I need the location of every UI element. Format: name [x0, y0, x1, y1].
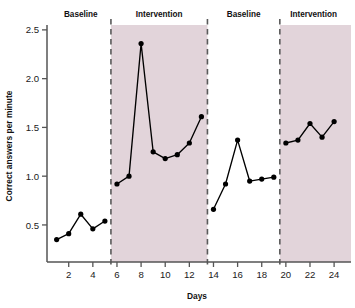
data-point-day-11	[175, 152, 180, 157]
x-tick-label-2: 6	[114, 269, 119, 280]
data-point-day-20	[283, 140, 288, 145]
phase-label-3: Intervention	[290, 10, 337, 19]
phase-label-layer: BaselineInterventionBaselineIntervention	[64, 10, 337, 19]
data-point-day-4	[90, 226, 95, 231]
x-axis-title: Days	[187, 291, 207, 301]
y-axis-title: Correct answers per minute	[4, 90, 14, 201]
phase-shading-3	[280, 25, 351, 262]
data-point-day-9	[151, 149, 156, 154]
series-line-phase-2	[213, 140, 273, 209]
data-point-day-8	[138, 41, 143, 46]
data-point-day-6	[114, 181, 119, 186]
data-point-day-7	[126, 174, 131, 179]
data-point-day-15	[223, 181, 228, 186]
data-point-day-19	[271, 175, 276, 180]
x-tick-label-9: 20	[281, 269, 292, 280]
data-point-day-14	[211, 207, 216, 212]
x-tick-label-11: 24	[329, 269, 340, 280]
data-point-day-21	[295, 137, 300, 142]
data-point-day-12	[187, 140, 192, 145]
data-point-day-24	[332, 119, 337, 124]
data-point-day-5	[102, 218, 107, 223]
y-tick-label-4: 2.5	[26, 24, 39, 35]
phase-shading-1	[111, 25, 208, 262]
phase-label-2: Baseline	[227, 10, 261, 19]
x-tick-label-10: 22	[305, 269, 316, 280]
phase-label-1: Intervention	[136, 10, 183, 19]
data-point-day-18	[259, 176, 264, 181]
x-tick-label-6: 14	[208, 269, 219, 280]
phase-shading-layer	[111, 25, 351, 262]
data-point-day-23	[319, 135, 324, 140]
data-point-day-22	[307, 121, 312, 126]
data-point-day-3	[78, 212, 83, 217]
x-tick-label-5: 12	[184, 269, 195, 280]
data-point-day-2	[66, 231, 71, 236]
chart-canvas: 0.51.01.52.02.524681012141618202224 Base…	[0, 0, 355, 308]
y-tick-label-0: 0.5	[26, 220, 39, 231]
x-tick-label-7: 16	[232, 269, 243, 280]
data-point-day-16	[235, 137, 240, 142]
x-tick-label-4: 10	[160, 269, 171, 280]
series-line-phase-0	[57, 214, 105, 239]
y-tick-label-1: 1.0	[26, 171, 39, 182]
x-tick-label-8: 18	[256, 269, 267, 280]
phase-label-0: Baseline	[64, 10, 98, 19]
y-tick-label-3: 2.0	[26, 73, 39, 84]
data-point-day-1	[54, 237, 59, 242]
data-point-day-17	[247, 178, 252, 183]
y-tick-label-2: 1.5	[26, 122, 39, 133]
x-tick-label-0: 2	[66, 269, 71, 280]
x-tick-label-1: 4	[90, 269, 96, 280]
data-point-day-13	[199, 114, 204, 119]
single-case-design-chart: 0.51.01.52.02.524681012141618202224 Base…	[0, 0, 355, 308]
x-tick-label-3: 8	[138, 269, 143, 280]
data-point-day-10	[163, 156, 168, 161]
